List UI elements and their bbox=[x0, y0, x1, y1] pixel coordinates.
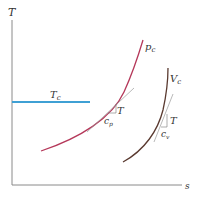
slope-rise-label-cv: T bbox=[170, 115, 178, 126]
t-s-diagram: T s Tc pc T cp Vc T cv bbox=[0, 0, 198, 200]
isochore-label: Vc bbox=[170, 73, 181, 86]
isobar-label: pc bbox=[145, 41, 155, 54]
y-axis-label: T bbox=[8, 6, 17, 19]
slope-run-label-cp: cp bbox=[104, 116, 113, 128]
x-axis-label: s bbox=[185, 181, 190, 191]
slope-rise-label-cp: T bbox=[117, 105, 125, 116]
isochore-curve bbox=[123, 68, 168, 162]
isotherm-label: Tc bbox=[50, 89, 61, 102]
slope-run-label-cv: cv bbox=[161, 129, 170, 140]
